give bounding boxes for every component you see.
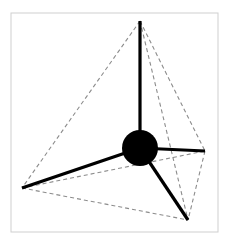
image-border: [11, 13, 218, 232]
tetrahedron-figure: [0, 0, 226, 244]
central-atom-sphere: [122, 130, 158, 166]
figure-canvas: [0, 0, 226, 244]
